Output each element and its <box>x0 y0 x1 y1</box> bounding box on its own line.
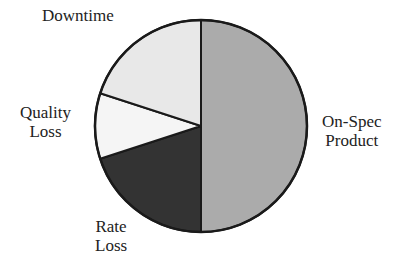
label-quality-line2: Loss <box>20 122 71 141</box>
label-rate-loss: Rate Loss <box>95 217 127 255</box>
label-onspec-line2: Product <box>322 131 381 150</box>
label-onspec-line1: On-Spec <box>322 112 381 131</box>
label-quality-loss: Quality Loss <box>20 103 71 141</box>
label-downtime: Downtime <box>42 6 114 25</box>
label-rate-line2: Loss <box>95 236 127 255</box>
pie-slice-on-spec-product <box>201 20 307 232</box>
label-onspec-product: On-Spec Product <box>322 112 381 150</box>
pie-slices <box>95 20 307 232</box>
label-quality-line1: Quality <box>20 103 71 122</box>
label-downtime-text: Downtime <box>42 6 114 25</box>
label-rate-line1: Rate <box>95 217 127 236</box>
